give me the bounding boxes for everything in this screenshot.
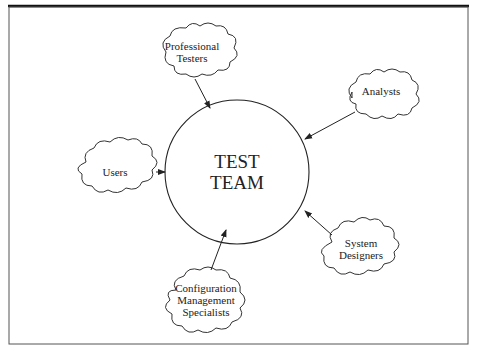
test-team-line1: TEST: [210, 151, 264, 172]
test-team-line2: TEAM: [210, 172, 264, 193]
analysts-label: Analysts: [362, 85, 401, 97]
arrow-system-designers: [305, 211, 332, 235]
node-line: Management: [175, 294, 237, 306]
node-line: Professional: [165, 40, 219, 52]
cloud-users: [78, 137, 157, 192]
arrow-professional-testers: [195, 79, 210, 108]
node-line: Testers: [165, 52, 219, 64]
users-label: Users: [102, 166, 127, 178]
node-line: Designers: [339, 249, 383, 261]
node-line: Users: [102, 166, 127, 178]
system-designers-label: System Designers: [339, 237, 383, 261]
arrow-analysts: [305, 112, 355, 139]
professional-testers-label: Professional Testers: [165, 40, 219, 64]
test-team-label: TEST TEAM: [210, 151, 264, 193]
node-line: System: [339, 237, 383, 249]
node-line: Specialists: [175, 306, 237, 318]
node-line: Analysts: [362, 85, 401, 97]
node-line: Configuration: [175, 282, 237, 294]
configuration-management-specialists-label: Configuration Management Specialists: [175, 282, 237, 318]
